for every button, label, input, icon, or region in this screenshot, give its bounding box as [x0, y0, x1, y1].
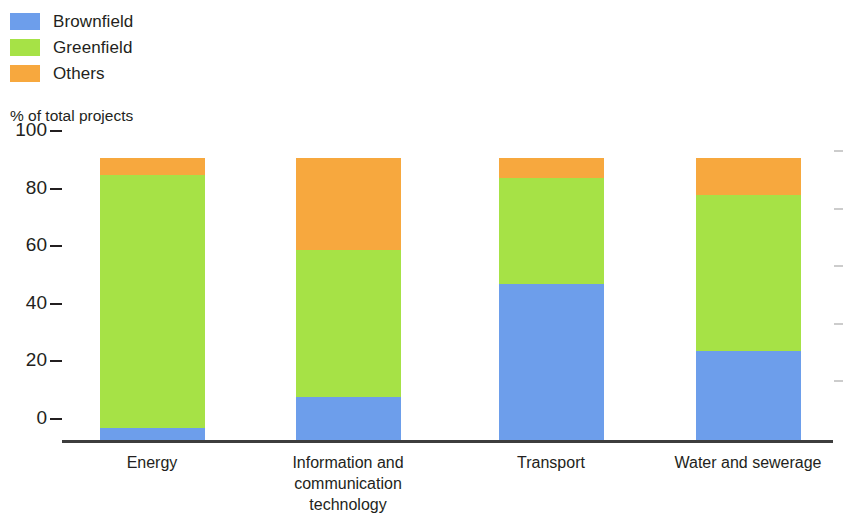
bar-segment-greenfield[interactable] [499, 178, 604, 285]
bar-segment-greenfield[interactable] [696, 195, 801, 351]
right-axis-tick-20 [834, 381, 843, 382]
y-axis-tick-label: 60 [7, 234, 47, 256]
bar-segment-brownfield[interactable] [696, 351, 801, 440]
chart-inner-frame: 020406080100 [62, 152, 830, 440]
bar-segment-greenfield[interactable] [100, 175, 205, 428]
right-axis-tick-60 [834, 266, 843, 267]
right-axis-tick-100 [834, 151, 843, 152]
right-axis-tick-40 [834, 323, 843, 324]
bar-segment-brownfield[interactable] [100, 428, 205, 440]
bar-segment-greenfield[interactable] [296, 250, 401, 397]
x-axis-label-3: Transport [456, 452, 646, 473]
x-axis-label-line: Information and [253, 452, 443, 473]
y-axis-tick-label: 0 [7, 407, 47, 429]
y-axis-tick-label: 40 [7, 292, 47, 314]
bar-segment-others[interactable] [499, 158, 604, 178]
y-axis-tick-mark [50, 418, 62, 420]
y-axis-tick-40: 40 [7, 292, 62, 314]
stacked-bar[interactable] [296, 158, 401, 440]
y-axis-tick-label: 20 [7, 349, 47, 371]
y-axis-tick-label: 100 [7, 119, 47, 141]
x-axis-baseline [62, 440, 833, 443]
bar-segment-others[interactable] [296, 158, 401, 250]
y-axis-tick-20: 20 [7, 349, 62, 371]
y-axis-tick-80: 80 [7, 177, 62, 199]
x-axis-label-1: Energy [57, 452, 247, 473]
y-axis-tick-60: 60 [7, 234, 62, 256]
chart-plot-area: 020406080100 EnergyInformation andcommun… [0, 0, 844, 517]
y-axis-tick-0: 0 [7, 407, 62, 429]
bar-segment-others[interactable] [100, 158, 205, 175]
y-axis-tick-mark [50, 303, 62, 305]
bar-segment-brownfield[interactable] [296, 397, 401, 440]
x-axis-label-2: Information andcommunicationtechnology [253, 452, 443, 515]
y-axis-tick-mark [50, 188, 62, 190]
bar-group-3 [499, 152, 604, 440]
bar-group-4 [696, 152, 801, 440]
x-axis-label-line: Energy [57, 452, 247, 473]
x-axis-label-line: Transport [456, 452, 646, 473]
bar-group-2 [296, 152, 401, 440]
bar-segment-brownfield[interactable] [499, 284, 604, 440]
x-axis-label-line: technology [253, 494, 443, 515]
stacked-bar[interactable] [499, 158, 604, 440]
x-axis-label-line: communication [253, 473, 443, 494]
y-axis-tick-label: 80 [7, 177, 47, 199]
x-axis-label-4: Water and sewerage [653, 452, 843, 473]
y-axis-tick-mark [50, 130, 62, 132]
bar-group-1 [100, 152, 205, 440]
y-axis-tick-mark [50, 360, 62, 362]
stacked-bar[interactable] [100, 158, 205, 440]
x-axis-label-line: Water and sewerage [653, 452, 843, 473]
y-axis-tick-mark [50, 245, 62, 247]
right-axis-tick-80 [834, 208, 843, 209]
y-axis-tick-100: 100 [7, 119, 62, 141]
bar-segment-others[interactable] [696, 158, 801, 195]
stacked-bar[interactable] [696, 158, 801, 440]
